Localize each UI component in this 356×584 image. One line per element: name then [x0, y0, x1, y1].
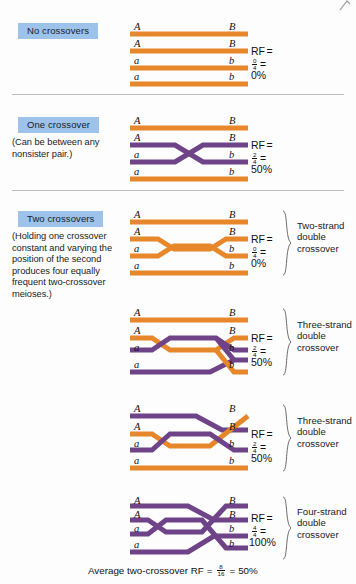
rf-percent-four-strand: 100% [249, 537, 276, 548]
allele-left-1: A [134, 116, 140, 127]
average-equals-1: = [207, 565, 213, 577]
allele-right-2: B [229, 510, 235, 521]
allele-right-4: b [229, 539, 234, 550]
rf-label: RF [251, 46, 265, 57]
allele-left-4: a [134, 456, 139, 467]
allele-right-2: B [229, 39, 235, 50]
allele-right-3: b [229, 56, 234, 67]
rf-equals-1: = [267, 46, 273, 57]
allele-right-4: b [229, 360, 234, 371]
allele-right-2: B [229, 133, 235, 144]
section-divider-1 [12, 94, 344, 95]
right-label-four-strand: Four-strand double crossover [297, 506, 356, 540]
rf-equals-1: = [267, 140, 273, 151]
allele-right-4: b [229, 261, 234, 272]
rf-percent-two-strand: 0% [251, 258, 266, 269]
allele-right-3: b [229, 524, 234, 535]
rf-equals-1: = [267, 234, 273, 245]
average-label: Average two-crossover RF [88, 565, 204, 577]
allele-right-1: B [229, 496, 235, 507]
allele-right-1: B [229, 404, 235, 415]
section-badge-one-crossover: One crossover [18, 117, 99, 133]
rf-percent-no-crossovers: 0% [251, 70, 266, 81]
section-note-one-crossover: (Can be between any nonsister pair.) [12, 137, 130, 160]
rf-equals-1: = [267, 429, 273, 440]
rf-percent-three-strand-1: 50% [251, 357, 272, 368]
allele-left-4: a [134, 360, 139, 371]
brace-three-strand-2 [281, 404, 293, 472]
allele-left-4: a [134, 261, 139, 272]
section-three-strand-double-crossover-1: A A a a B B b b RF = 2 4 = 50% Three-str… [0, 288, 356, 384]
section-one-crossover: One crossover (Can be between any nonsis… [0, 96, 356, 192]
right-label-three-strand-2: Three-strand double crossover [297, 415, 356, 449]
section-no-crossovers: No crossovers A A a a B B b b RF = 0 4 = [0, 0, 356, 96]
rf-equals-1: = [267, 333, 273, 344]
rf-expression-one-crossover: RF = [251, 140, 274, 151]
allele-left-3: a [134, 343, 139, 354]
allele-left-4: a [134, 540, 139, 551]
right-label-two-strand: Two-strand double crossover [297, 220, 356, 254]
allele-right-3: b [229, 343, 234, 354]
allele-right-1: B [229, 116, 235, 127]
average-equals-2: = [229, 565, 235, 577]
section-three-strand-double-crossover-2: A A a a B B b b RF = 2 4 = 50% Three-str… [0, 384, 356, 480]
allele-left-2: A [134, 39, 140, 50]
allele-left-3: a [134, 439, 139, 450]
rf-label: RF [251, 429, 265, 440]
allele-left-2: A [134, 227, 140, 238]
rf-label: RF [251, 234, 265, 245]
rf-expression-three-strand-2: RF = [251, 429, 274, 440]
rf-label: RF [251, 140, 265, 151]
allele-right-1: B [229, 308, 235, 319]
allele-left-2: A [134, 510, 140, 521]
allele-left-3: a [134, 150, 139, 161]
rf-label: RF [251, 513, 265, 524]
allele-left-4: a [134, 72, 139, 83]
section-divider-2 [12, 190, 344, 191]
rf-expression-no-crossovers: RF = [251, 46, 274, 57]
brace-three-strand-1 [281, 308, 293, 376]
rf-expression-three-strand-1: RF = [251, 333, 274, 344]
rf-equals-1: = [267, 513, 273, 524]
allele-right-3: b [229, 439, 234, 450]
allele-left-2: A [134, 133, 140, 144]
allele-left-1: A [134, 496, 140, 507]
section-badge-two-crossovers: Two crossovers [18, 211, 103, 227]
allele-left-3: a [134, 244, 139, 255]
allele-right-3: b [229, 150, 234, 161]
allele-left-3: a [134, 524, 139, 535]
allele-left-4: a [134, 167, 139, 178]
allele-right-2: B [229, 422, 235, 433]
allele-right-4: b [229, 72, 234, 83]
right-label-three-strand-1: Three-strand double crossover [297, 319, 356, 353]
rf-label: RF [251, 333, 265, 344]
average-denominator: 16 [217, 570, 226, 577]
section-four-strand-double-crossover: A A a a B B b b RF = 4 4 = 100% Four-str… [0, 480, 356, 556]
allele-left-3: a [134, 56, 139, 67]
allele-right-4: b [229, 456, 234, 467]
brace-four-strand [281, 496, 293, 560]
crossover-recombination-figure: No crossovers A A a a B B b b RF = 0 4 = [0, 0, 356, 584]
brace-two-strand [281, 210, 293, 276]
allele-right-2: B [229, 227, 235, 238]
average-percent: 50% [238, 565, 258, 577]
average-two-crossover-rf: Average two-crossover RF = 8 16 = 50% [88, 564, 258, 578]
allele-right-2: B [229, 326, 235, 337]
rf-percent-one-crossover: 50% [251, 164, 272, 175]
average-fraction: 8 16 [217, 564, 226, 578]
allele-right-1: B [229, 210, 235, 221]
allele-right-3: b [229, 244, 234, 255]
section-badge-no-crossovers: No crossovers [18, 23, 98, 39]
rf-expression-four-strand: RF = [251, 513, 274, 524]
allele-left-1: A [134, 308, 140, 319]
allele-left-1: A [134, 210, 140, 221]
allele-right-1: B [229, 22, 235, 33]
allele-left-2: A [134, 422, 140, 433]
section-two-strand-double-crossover: Two crossovers (Holding one crossover co… [0, 192, 356, 288]
allele-right-4: b [229, 167, 234, 178]
rf-percent-three-strand-2: 50% [251, 453, 272, 464]
allele-left-1: A [134, 22, 140, 33]
rf-expression-two-strand: RF = [251, 234, 274, 245]
allele-left-1: A [134, 404, 140, 415]
allele-left-2: A [134, 326, 140, 337]
